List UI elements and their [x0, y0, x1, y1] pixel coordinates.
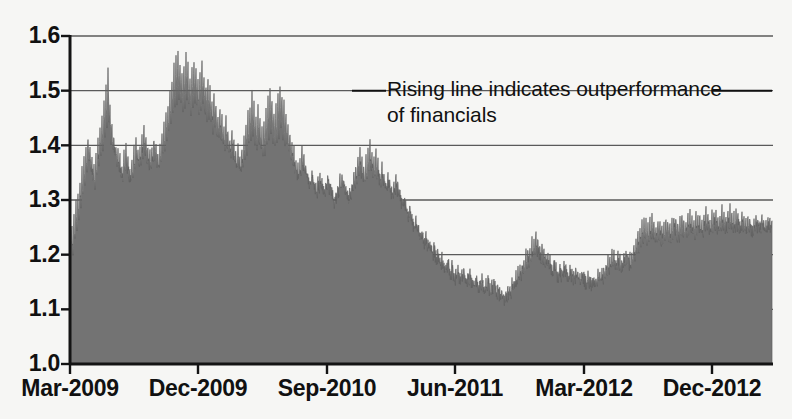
chart-annotation: Rising line indicates outperformance of … — [387, 76, 722, 127]
chart-plot-area — [0, 0, 792, 419]
y-tick-2: 1.4 — [0, 134, 60, 158]
y-tick-label: 1.5 — [6, 79, 60, 102]
y-tick-label: 1.4 — [6, 134, 60, 157]
x-tick-label-4: Mar-2012 — [535, 377, 632, 400]
x-tick-label-1: Dec-2009 — [149, 377, 248, 400]
x-tick-label-5: Dec-2012 — [663, 377, 762, 400]
x-tick-label-2: Sep-2010 — [278, 377, 377, 400]
y-tick-3: 1.3 — [0, 188, 60, 212]
y-tick-label: 1.1 — [6, 297, 60, 320]
y-tick-1: 1.5 — [0, 79, 60, 103]
y-tick-6: 1.0 — [0, 352, 60, 376]
y-tick-label: 1.3 — [6, 188, 60, 211]
y-tick-0: 1.6 — [0, 24, 60, 48]
x-tick-label-0: Mar-2009 — [21, 377, 118, 400]
x-tick-label-3: Jun-2011 — [407, 377, 503, 400]
y-tick-5: 1.1 — [0, 297, 60, 321]
y-tick-label: 1.6 — [6, 24, 60, 47]
y-tick-label: 1.2 — [6, 243, 60, 266]
y-tick-4: 1.2 — [0, 243, 60, 267]
chart-figure: 1.6 1.5 1.4 1.3 1.2 1.1 1.0 Mar-2009 Dec… — [0, 0, 792, 419]
y-tick-label: 1.0 — [6, 352, 60, 375]
